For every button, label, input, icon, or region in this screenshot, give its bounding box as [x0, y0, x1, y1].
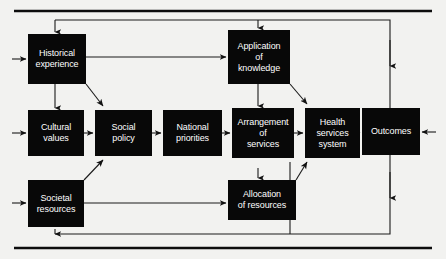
node-label-health-services-system: Health services system — [316, 117, 348, 150]
node-label-social-policy: Social policy — [112, 122, 136, 144]
node-social-policy[interactable]: Social policy — [95, 110, 152, 156]
node-outcomes[interactable]: Outcomes — [362, 108, 420, 155]
node-label-arrangement-of-services: Arrangement of services — [238, 117, 289, 150]
node-health-services-system[interactable]: Health services system — [305, 108, 360, 158]
node-label-allocation-of-resources: Allocation of resources — [238, 189, 286, 211]
node-societal-resources[interactable]: Societal resources — [28, 180, 84, 227]
node-label-societal-resources: Societal resources — [37, 193, 76, 215]
node-allocation-of-resources[interactable]: Allocation of resources — [228, 180, 296, 220]
node-label-national-priorities: National priorities — [176, 122, 209, 144]
node-application-of-knowledge[interactable]: Application of knowledge — [228, 30, 290, 84]
connector-historical-experience-to-social-policy — [86, 84, 103, 106]
node-cultural-values[interactable]: Cultural values — [28, 110, 84, 156]
connector-societal-resources-to-social-policy — [84, 160, 103, 180]
connector-application-of-knowledge-to-health-services-system — [290, 84, 307, 104]
node-national-priorities[interactable]: National priorities — [163, 110, 222, 156]
connector-outcomes-to-bottom-bus — [55, 155, 390, 234]
node-arrangement-of-services[interactable]: Arrangement of services — [232, 108, 294, 158]
node-label-application-of-knowledge: Application of knowledge — [238, 41, 281, 74]
node-historical-experience[interactable]: Historical experience — [28, 34, 86, 84]
connector-allocation-of-resources-to-health-services-system — [296, 162, 307, 180]
node-label-cultural-values: Cultural values — [41, 122, 71, 144]
diagram-canvas: Historical experience Application of kno… — [0, 0, 446, 259]
node-label-outcomes: Outcomes — [371, 126, 411, 137]
node-label-historical-experience: Historical experience — [35, 48, 78, 70]
connector-outcomes-to-top-bus — [55, 20, 390, 108]
